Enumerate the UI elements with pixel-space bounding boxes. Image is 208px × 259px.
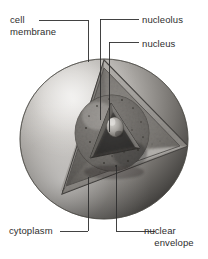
cell-diagram-figure: cell membrane nucleolus nucleus cytoplas…	[0, 0, 208, 259]
label-nuclear-envelope-line1: nuclear	[144, 225, 204, 237]
label-nucleus: nucleus	[142, 38, 175, 50]
label-cell-membrane: cell membrane	[10, 14, 72, 37]
animal-cell-illustration	[0, 0, 208, 259]
label-nuclear-envelope: nuclear envelope	[144, 225, 204, 248]
label-nucleolus: nucleolus	[142, 14, 183, 26]
label-cytoplasm: cytoplasm	[9, 225, 53, 237]
label-nuclear-envelope-line2: envelope	[144, 237, 204, 249]
